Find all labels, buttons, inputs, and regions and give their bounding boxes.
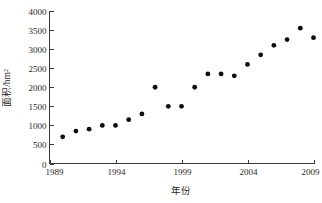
data-point xyxy=(219,72,224,77)
data-point xyxy=(113,123,118,128)
y-tick-label: 1000 xyxy=(29,121,48,131)
data-point xyxy=(311,35,316,40)
y-tick-label: 4000 xyxy=(29,7,48,17)
data-point xyxy=(258,52,263,57)
data-point xyxy=(87,127,92,132)
data-point xyxy=(100,123,105,128)
data-point xyxy=(74,129,79,134)
y-axis-tick-labels: 05001000150020002500300035004000 xyxy=(29,7,48,170)
data-point xyxy=(166,104,171,109)
data-point xyxy=(192,85,197,90)
data-point xyxy=(232,73,237,78)
data-point xyxy=(153,85,158,90)
data-point xyxy=(272,43,277,48)
chart-canvas: 05001000150020002500300035004000 1989199… xyxy=(0,0,322,203)
x-axis-ticks xyxy=(51,160,315,164)
data-point xyxy=(179,104,184,109)
y-tick-label: 3000 xyxy=(29,45,48,55)
x-axis-title: 年份 xyxy=(171,185,191,196)
data-point xyxy=(140,112,145,117)
x-tick-label: 1994 xyxy=(108,167,127,177)
data-point xyxy=(245,62,250,67)
data-point-group xyxy=(60,26,316,139)
x-tick-label: 1999 xyxy=(174,167,193,177)
y-tick-label: 2000 xyxy=(29,83,48,93)
y-axis-ticks xyxy=(50,12,54,165)
x-tick-label: 2004 xyxy=(240,167,259,177)
data-point xyxy=(126,117,131,122)
data-point xyxy=(206,72,211,77)
x-tick-label: 2009 xyxy=(302,167,321,177)
data-point xyxy=(285,37,290,42)
scatter-chart: 05001000150020002500300035004000 1989199… xyxy=(0,0,322,203)
data-point xyxy=(298,26,303,31)
y-tick-label: 500 xyxy=(33,140,47,150)
y-tick-label: 1500 xyxy=(29,102,48,112)
x-axis-tick-labels: 19891994199920042009 xyxy=(46,167,321,177)
y-axis-title: 面积/hm² xyxy=(1,69,12,107)
y-tick-label: 3500 xyxy=(29,26,48,36)
data-point xyxy=(60,134,65,139)
x-tick-label: 1989 xyxy=(46,167,65,177)
y-tick-label: 2500 xyxy=(29,64,48,74)
